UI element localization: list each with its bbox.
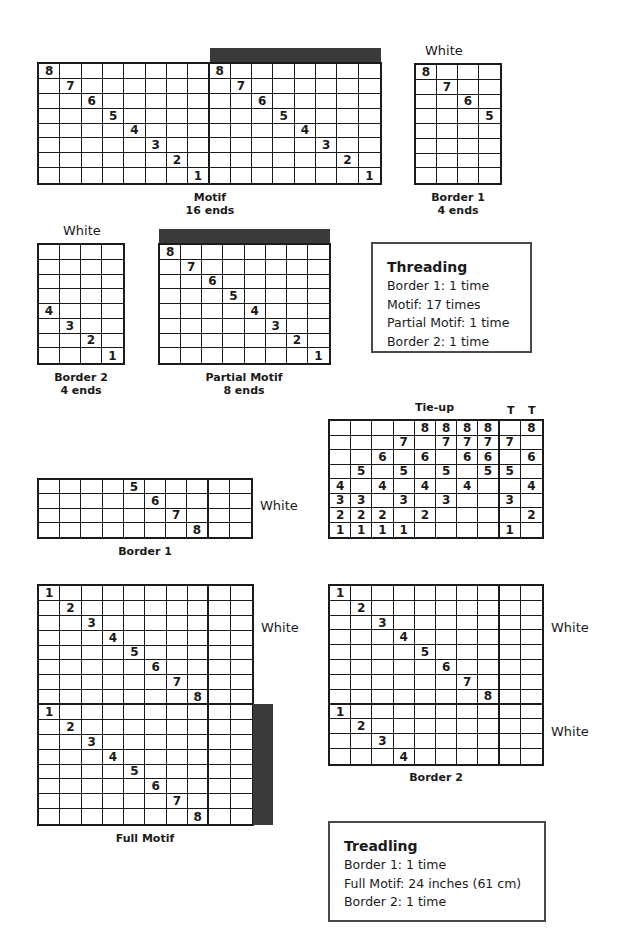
grid-cell <box>102 245 123 260</box>
grid-cell: 8 <box>160 245 181 260</box>
grid-cell: 6 <box>372 450 393 465</box>
grid-cell <box>167 705 188 720</box>
grid-cell <box>252 79 273 94</box>
grid-cell: 3 <box>351 494 372 509</box>
grid-cell <box>295 64 316 79</box>
grid-cell <box>231 646 252 661</box>
grid-cell <box>458 154 479 169</box>
treadling-line: Border 1: 1 time <box>344 856 532 875</box>
grid-cell <box>231 809 252 824</box>
grid-cell: 4 <box>39 304 60 319</box>
grid-cell <box>330 749 351 764</box>
grid-cell: 7 <box>457 675 478 690</box>
grid-cell <box>337 109 358 124</box>
grid-cell <box>124 720 145 735</box>
grid-cell <box>188 616 209 631</box>
grid-cell <box>478 601 499 616</box>
grid-cell <box>479 65 500 80</box>
grid-cell <box>167 586 188 601</box>
grid-cell <box>457 523 478 538</box>
grid-cell <box>351 690 372 705</box>
grid-cell: 7 <box>167 675 188 690</box>
grid-cell <box>337 79 358 94</box>
grid-cell <box>359 79 380 94</box>
grid-cell <box>372 630 393 645</box>
grid-cell <box>202 260 223 275</box>
grid-cell <box>145 794 166 809</box>
grid-cell <box>103 705 124 720</box>
grid-cell <box>437 154 458 169</box>
grid-cell <box>39 631 60 646</box>
grid-cell <box>457 586 478 601</box>
grid-cell <box>39 168 60 183</box>
border2-treadling-grid: 123456781234 <box>328 584 544 766</box>
tabby-label: T <box>528 404 536 417</box>
grid-cell <box>187 509 208 523</box>
grid-cell <box>209 586 230 601</box>
grid-cell <box>415 690 436 705</box>
grid-cell <box>372 675 393 690</box>
grid-cell <box>124 601 145 616</box>
grid-cell <box>209 616 230 631</box>
grid-cell <box>295 109 316 124</box>
grid-cell <box>316 109 337 124</box>
grid-cell <box>167 631 188 646</box>
grid-cell <box>372 645 393 660</box>
grid-cell <box>124 735 145 750</box>
grid-cell <box>457 465 478 480</box>
grid-cell <box>188 794 209 809</box>
grid-cell <box>82 646 103 661</box>
grid-cell <box>316 168 337 183</box>
grid-cell <box>266 304 287 319</box>
grid-cell <box>188 109 209 124</box>
treadling-line: Border 2: 1 time <box>344 893 532 912</box>
grid-cell: 1 <box>308 348 329 363</box>
grid-cell <box>436 705 457 720</box>
grid-cell <box>458 65 479 80</box>
grid-cell <box>337 124 358 139</box>
grid-cell <box>330 630 351 645</box>
grid-cell <box>351 630 372 645</box>
grid-cell <box>60 334 81 349</box>
grid-cell <box>316 124 337 139</box>
grid-cell: 4 <box>295 124 316 139</box>
grid-cell <box>394 616 415 631</box>
grid-cell <box>209 779 230 794</box>
grid-cell <box>82 138 103 153</box>
grid-cell <box>521 675 542 690</box>
grid-cell <box>82 586 103 601</box>
grid-cell <box>166 494 187 508</box>
grid-cell <box>308 304 329 319</box>
grid-cell <box>82 109 103 124</box>
grid-cell: 2 <box>81 334 102 349</box>
grid-cell <box>209 750 230 765</box>
grid-cell <box>210 153 231 168</box>
grid-cell <box>521 749 542 764</box>
grid-cell <box>372 719 393 734</box>
grid-cell <box>81 245 102 260</box>
grid-cell <box>478 523 499 538</box>
grid-cell <box>145 586 166 601</box>
grid-cell <box>231 616 252 631</box>
grid-cell <box>351 660 372 675</box>
grid-cell <box>500 601 521 616</box>
grid-cell: 5 <box>394 465 415 480</box>
grid-cell <box>167 750 188 765</box>
grid-cell <box>39 675 60 690</box>
grid-cell <box>394 675 415 690</box>
grid-cell <box>479 139 500 154</box>
grid-cell <box>187 494 208 508</box>
grid-cell <box>252 64 273 79</box>
grid-cell <box>230 494 251 508</box>
grid-cell <box>145 509 166 523</box>
grid-cell <box>60 64 81 79</box>
grid-cell <box>188 94 209 109</box>
grid-cell <box>415 586 436 601</box>
grid-cell <box>372 421 393 436</box>
grid-cell <box>39 523 60 537</box>
grid-cell <box>39 601 60 616</box>
grid-cell <box>60 289 81 304</box>
grid-cell <box>394 450 415 465</box>
grid-cell <box>145 631 166 646</box>
grid-cell <box>82 124 103 139</box>
